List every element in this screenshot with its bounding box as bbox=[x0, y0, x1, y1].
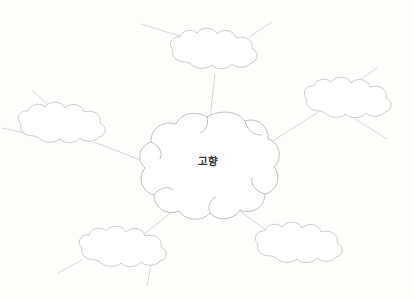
stub-right-down bbox=[355, 119, 387, 139]
cloud-bottom-left-outline bbox=[79, 226, 166, 266]
cloud-top-outline bbox=[170, 28, 257, 68]
cloud-bottom-left[interactable] bbox=[79, 226, 166, 266]
mindmap-canvas: 고향 bbox=[0, 0, 414, 301]
center-cloud[interactable]: 고향 bbox=[140, 112, 279, 219]
cloud-right[interactable] bbox=[304, 77, 391, 117]
stub-bottom-left-down bbox=[147, 265, 151, 286]
cloud-left-outline bbox=[18, 102, 105, 142]
stub-bottom-left-out bbox=[58, 260, 82, 273]
connector-center-to-right bbox=[268, 113, 317, 144]
cloud-bottom-right[interactable] bbox=[255, 222, 342, 262]
center-cloud-label: 고향 bbox=[198, 155, 219, 167]
stub-top-right bbox=[249, 22, 272, 37]
cloud-bottom-right-outline bbox=[255, 222, 342, 262]
cloud-top[interactable] bbox=[170, 28, 257, 68]
connector-center-to-top bbox=[210, 74, 215, 119]
stub-top-left bbox=[141, 24, 186, 38]
cloud-left[interactable] bbox=[18, 102, 105, 142]
cloud-right-outline bbox=[304, 77, 391, 117]
mindmap-worksheet: 고향 bbox=[0, 0, 414, 301]
